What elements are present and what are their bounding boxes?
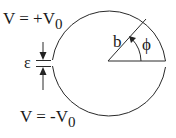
radius-label: b: [113, 32, 122, 51]
angle-arc: [132, 39, 141, 61]
lower-electrode-arc: [53, 66, 166, 116]
arrow-down-icon: [40, 52, 47, 60]
angle-label: ϕ: [142, 35, 151, 54]
bottom-voltage-label: V = -V0: [20, 107, 76, 130]
top-voltage-label: V = +V0: [3, 9, 62, 32]
split-cylinder-diagram: V = +V0 ε V = -V0 b ϕ: [0, 0, 176, 138]
gap-label: ε: [24, 54, 31, 71]
